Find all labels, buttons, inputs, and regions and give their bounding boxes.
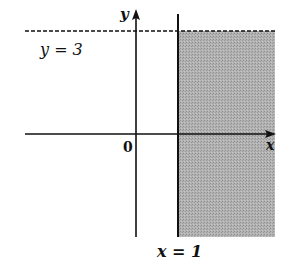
origin-label: 0 [123, 139, 133, 155]
y-axis-label: y [119, 5, 130, 23]
x-axis-label: x [265, 137, 275, 153]
coordinate-plane: y y = 3 0 x x = 1 [0, 0, 290, 277]
line-label-x1: x = 1 [156, 242, 202, 261]
line-label-y3: y = 3 [39, 40, 83, 59]
